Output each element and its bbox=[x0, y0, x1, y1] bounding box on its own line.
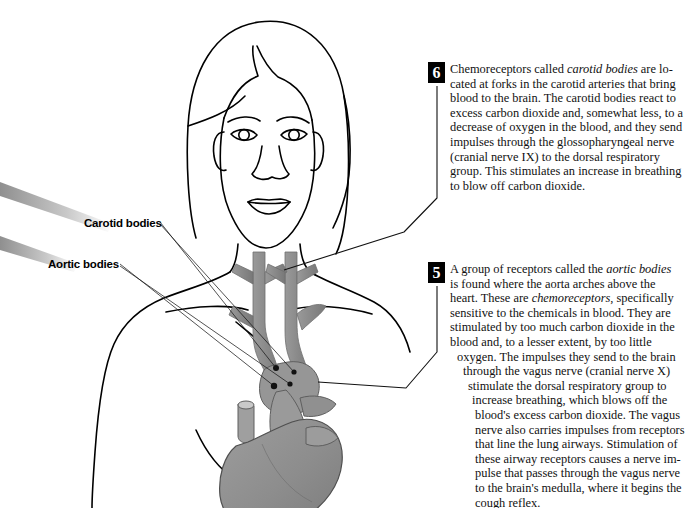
hair-part-right bbox=[257, 46, 312, 120]
shoulder-left bbox=[92, 272, 230, 508]
figure-page: Carotid bodies Aortic bodies 6 Chemorece… bbox=[0, 0, 688, 508]
callout-5-italic-term: chemoreceptors bbox=[532, 291, 611, 305]
callout-number-badge-6: 6 bbox=[428, 62, 445, 83]
callout-5-line: blood and, to a lesser extent, by too li… bbox=[450, 335, 684, 350]
great-vessels bbox=[229, 252, 326, 382]
callout-5-line-text: cough reflex. bbox=[475, 496, 540, 508]
callout-5-line-text: sensitive to the chemicals in blood. The… bbox=[450, 306, 671, 320]
callout-5-line: sensitive to the chemicals in blood. The… bbox=[450, 306, 684, 321]
callout-6-seg-4: blood to the brain. The carotid bodies r… bbox=[450, 91, 676, 105]
callout-5-line: is found where the aorta arches above th… bbox=[450, 277, 684, 292]
callout-5-line: to the brain's medulla, where it begins … bbox=[475, 481, 684, 496]
callout-6-italic-term: carotid bodies bbox=[567, 62, 638, 76]
callout-6-seg-9: group. This stimulates an increase in br… bbox=[450, 164, 681, 178]
vena-cava-lumen bbox=[238, 401, 254, 409]
iris-left bbox=[239, 130, 249, 141]
callout-5-line-text: stimulate the dorsal respiratory group t… bbox=[468, 379, 667, 393]
callout-5-line-text: A group of receptors called the bbox=[450, 262, 606, 276]
callout-5-line: that line the lung airways. Stimulation … bbox=[475, 437, 684, 452]
callout-block-5: 5 A group of receptors called the aortic… bbox=[420, 262, 688, 508]
callout-6-seg-3: cated at forks in the carotid arteries t… bbox=[450, 77, 676, 91]
callout-5-line-text: blood and, to a lesser extent, by too li… bbox=[450, 335, 652, 349]
callout-5-line-text: increase breathing, which blows off the bbox=[472, 393, 667, 407]
iris-right bbox=[289, 130, 299, 141]
eyebrow-right bbox=[277, 117, 309, 123]
label-aortic-bodies: Aortic bodies bbox=[48, 258, 119, 270]
callout-5-line-text: nerve also carries impulses from recepto… bbox=[475, 423, 685, 437]
callout-6-seg-5: excess carbon dioxide and, somewhat less… bbox=[450, 106, 683, 120]
callout-5-line-text: blood's excess carbon dioxide. The vagus bbox=[475, 408, 680, 422]
hair-outline bbox=[187, 21, 348, 254]
hair-right-strand bbox=[333, 96, 350, 228]
callout-5-line: cough reflex. bbox=[475, 496, 684, 508]
eye-right bbox=[281, 130, 307, 141]
ear-right bbox=[311, 132, 324, 170]
callout-5-line: stimulate the dorsal respiratory group t… bbox=[468, 379, 684, 394]
label-carotid-bodies: Carotid bodies bbox=[84, 217, 162, 229]
callout-5-line: heart. These are chemoreceptors, specifi… bbox=[450, 291, 684, 306]
callout-5-line: A group of receptors called the aortic b… bbox=[450, 262, 684, 277]
eyebrow-left bbox=[228, 117, 260, 122]
callout-block-6: 6 Chemoreceptors called carotid bodies a… bbox=[420, 62, 688, 193]
callout-5-line: oxygen. The impulses they send to the br… bbox=[457, 350, 684, 365]
callout-5-line: through the vagus nerve (cranial nerve X… bbox=[463, 364, 684, 379]
callout-6-seg-7: impulses through the glossopharyngeal ne… bbox=[450, 135, 674, 149]
callout-text-5: A group of receptors called the aortic b… bbox=[420, 262, 688, 508]
callout-5-line-text-tail: , specifically bbox=[610, 291, 673, 305]
callout-5-line-text: through the vagus nerve (cranial nerve X… bbox=[463, 364, 670, 378]
eye-left bbox=[231, 130, 257, 141]
mouth bbox=[248, 199, 290, 214]
hairline bbox=[224, 46, 258, 118]
heart-and-aorta bbox=[220, 362, 343, 508]
callout-5-italic-term: aortic bodies bbox=[606, 262, 671, 276]
callout-5-line-text: these airway receptors causes a nerve im… bbox=[475, 452, 681, 466]
callout-number-badge-5: 5 bbox=[428, 262, 445, 283]
callout-6-seg-10: to blow off carbon dioxide. bbox=[450, 179, 585, 193]
callout-6-seg-2: are lo- bbox=[638, 62, 673, 76]
shoulder-right bbox=[310, 272, 410, 352]
subclavian-branch-left bbox=[229, 306, 253, 328]
callout-5-line-text: to the brain's medulla, where it begins … bbox=[475, 481, 682, 495]
callout-6-seg-8: (cranial nerve IX) to the dorsal respira… bbox=[450, 150, 660, 164]
callout-5-line: increase breathing, which blows off the bbox=[472, 393, 684, 408]
pulmonary-branch-right bbox=[300, 396, 336, 417]
callout-5-line-text: that line the lung airways. Stimulation … bbox=[475, 437, 678, 451]
callout-6-seg-6: decrease of oxygen in the blood, and the… bbox=[450, 120, 682, 134]
callout-5-line-text: oxygen. The impulses they send to the br… bbox=[457, 350, 676, 364]
mouth-line bbox=[248, 202, 290, 204]
vena-cava-stub bbox=[238, 404, 254, 443]
callout-5-line: pulse that passes through the vagus nerv… bbox=[475, 466, 684, 481]
callout-5-line: nerve also carries impulses from recepto… bbox=[475, 423, 684, 438]
carotid-fork-left bbox=[232, 264, 253, 284]
callout-5-line: these airway receptors causes a nerve im… bbox=[475, 452, 684, 467]
callout-5-line-text: stimulated by too much carbon dioxide in… bbox=[450, 320, 675, 334]
callout-5-line: stimulated by too much carbon dioxide in… bbox=[450, 320, 684, 335]
callout-5-line-text: is found where the aorta arches above th… bbox=[450, 277, 655, 291]
callout-5-line-text: pulse that passes through the vagus nerv… bbox=[475, 466, 680, 480]
nose bbox=[252, 146, 289, 179]
callout-text-column: 6 Chemoreceptors called carotid bodies a… bbox=[420, 0, 688, 508]
callout-text-6: Chemoreceptors called carotid bodies are… bbox=[420, 62, 688, 193]
callout-5-line: blood's excess carbon dioxide. The vagus bbox=[475, 408, 684, 423]
carotid-fork-right-2 bbox=[297, 264, 318, 284]
callout-5-line-text: heart. These are bbox=[450, 291, 532, 305]
anatomy-illustration bbox=[0, 0, 420, 508]
hair-left-fringe bbox=[188, 96, 245, 126]
callout-6-seg-1: Chemoreceptors called bbox=[450, 62, 567, 76]
